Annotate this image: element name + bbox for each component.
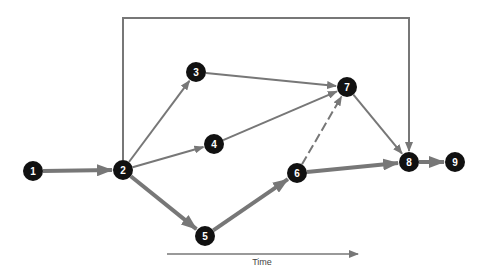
nodes: 123456789 [23, 62, 465, 246]
time-label: Time [252, 257, 272, 267]
edge-6-7 [302, 97, 341, 165]
node-label: 3 [193, 67, 199, 78]
network-diagram: 123456789 Time [0, 0, 501, 279]
edge-5-6 [213, 179, 288, 230]
node-label: 8 [406, 157, 412, 168]
node-9: 9 [445, 152, 465, 172]
node-label: 1 [30, 166, 36, 177]
edges [43, 18, 444, 230]
node-3: 3 [186, 62, 206, 82]
node-5: 5 [195, 226, 215, 246]
edge-3-7 [206, 73, 336, 86]
edge-4-7 [223, 91, 337, 140]
node-7: 7 [337, 77, 357, 97]
time-axis: Time [167, 254, 358, 267]
node-6: 6 [287, 163, 307, 183]
edge-2-8 [123, 18, 409, 160]
node-label: 6 [294, 168, 300, 179]
node-label: 2 [120, 165, 126, 176]
node-8: 8 [399, 152, 419, 172]
node-4: 4 [204, 134, 224, 154]
node-label: 9 [452, 157, 458, 168]
edge-7-8 [353, 95, 402, 154]
node-label: 5 [202, 231, 208, 242]
edge-2-3 [129, 81, 189, 162]
edge-1-2 [43, 170, 112, 171]
node-2: 2 [113, 160, 133, 180]
node-label: 7 [344, 82, 350, 93]
edge-6-8 [307, 163, 398, 172]
node-label: 4 [211, 139, 217, 150]
node-1: 1 [23, 161, 43, 181]
edge-2-5 [131, 176, 197, 229]
edge-2-4 [133, 147, 204, 167]
